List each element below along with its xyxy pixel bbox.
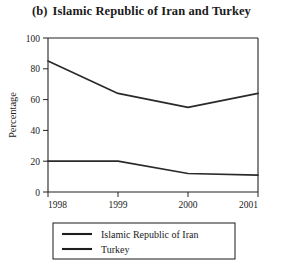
y-tick-label: 80 bbox=[31, 64, 41, 74]
y-tick-label: 100 bbox=[26, 34, 41, 44]
series-line-turkey bbox=[48, 61, 258, 107]
legend-label: Islamic Republic of Iran bbox=[101, 229, 198, 240]
legend-label: Turkey bbox=[101, 244, 130, 255]
y-tick-label: 60 bbox=[31, 95, 41, 105]
figure-panel: (b)Islamic Republic of Iran and Turkey 1… bbox=[0, 0, 283, 265]
y-tick-label: 0 bbox=[35, 188, 40, 198]
y-tick-label: 20 bbox=[31, 157, 41, 167]
x-tick-label: 1998 bbox=[48, 200, 67, 210]
series-line-islamic-republic-of-iran bbox=[48, 161, 258, 175]
y-tick-labels: 100 80 60 40 20 0 bbox=[26, 34, 41, 198]
chart-title-text: Islamic Republic of Iran and Turkey bbox=[53, 4, 251, 18]
y-tick-label: 40 bbox=[31, 126, 41, 136]
chart-legend: Islamic Republic of Iran Turkey bbox=[53, 223, 235, 259]
x-tick-labels: 1998 1999 2000 2001 bbox=[48, 200, 258, 210]
panel-tag: (b) bbox=[32, 4, 48, 18]
y-axis-title: Percentage bbox=[7, 92, 18, 138]
x-tick-label: 2000 bbox=[179, 200, 198, 210]
series-group bbox=[48, 61, 258, 175]
x-tick-label: 2001 bbox=[239, 200, 258, 210]
plot-axes bbox=[48, 38, 258, 192]
x-tick-marks bbox=[48, 192, 258, 197]
line-chart-plot: 100 80 60 40 20 0 Percentage 1998 1999 2… bbox=[0, 22, 283, 265]
x-tick-label: 1999 bbox=[109, 200, 128, 210]
chart-title: (b)Islamic Republic of Iran and Turkey bbox=[0, 4, 283, 19]
